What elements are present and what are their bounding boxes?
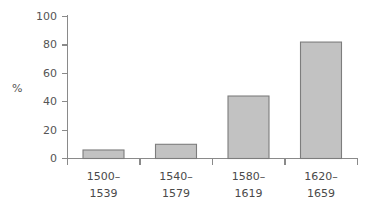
x-label-3-line1: 1620– (304, 170, 338, 183)
y-tick-label-80: 80 (43, 38, 57, 51)
x-label-2-line2: 1619 (235, 187, 263, 200)
x-label-1-line1: 1540– (159, 170, 193, 183)
x-label-3-line2: 1659 (307, 187, 335, 200)
bar-1580-1619 (228, 96, 269, 158)
bar-1540-1579 (156, 144, 197, 158)
x-label-0-line2: 1539 (90, 187, 118, 200)
y-tick-label-0: 0 (50, 152, 57, 165)
y-tick-label-40: 40 (43, 95, 57, 108)
chart-canvas: 0 20 40 60 80 100 % 1500– 1539 (0, 0, 374, 204)
y-tick-label-60: 60 (43, 67, 57, 80)
y-tick-label-100: 100 (36, 10, 57, 23)
bar-1620-1659 (301, 42, 342, 158)
x-label-2-line1: 1580– (232, 170, 266, 183)
y-axis-title: % (12, 82, 22, 95)
bar-chart-figure: 0 20 40 60 80 100 % 1500– 1539 (0, 0, 374, 204)
y-tick-label-20: 20 (43, 124, 57, 137)
bar-1500-1539 (83, 150, 124, 159)
x-label-1-line2: 1579 (162, 187, 190, 200)
x-label-0-line1: 1500– (87, 170, 121, 183)
